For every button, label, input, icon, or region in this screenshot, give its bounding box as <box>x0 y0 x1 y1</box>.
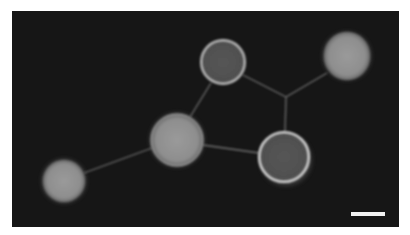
vesicle-top-right <box>324 32 370 80</box>
tube-top-right-to-junction <box>286 73 327 97</box>
tube-junction-to-lower-right <box>285 97 286 132</box>
micrograph <box>0 0 410 235</box>
vesicle-lower-right <box>259 132 309 182</box>
scale-bar <box>351 212 385 216</box>
tube-middle-to-lower-right <box>203 145 259 153</box>
tube-middle-to-top-center <box>190 83 211 117</box>
vesicle-top-center <box>201 40 245 84</box>
vesicle-lower-left <box>43 160 85 202</box>
tube-lower-left-to-middle <box>84 148 152 173</box>
tube-top-center-to-junction <box>243 75 286 97</box>
vesicle-middle <box>151 114 203 166</box>
